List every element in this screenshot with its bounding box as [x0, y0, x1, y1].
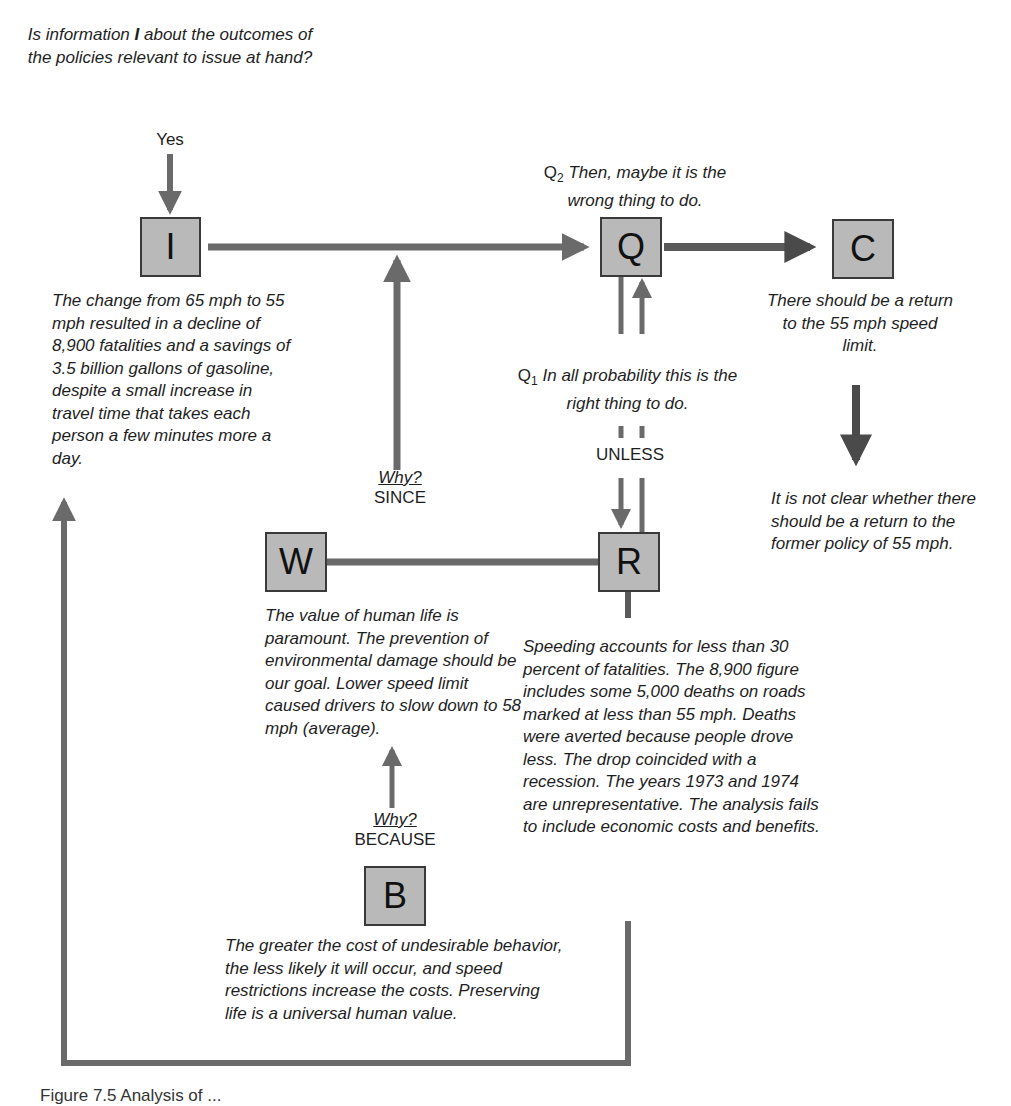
- figure-caption: Figure 7.5 Analysis of ...: [40, 1086, 221, 1106]
- rebuttal-conclusion-text: It is not clear whether there should be …: [771, 488, 991, 556]
- q2-text: Q2 Then, maybe it is the wrong thing to …: [530, 162, 740, 212]
- top-question: Is information I about the outcomes of t…: [20, 24, 320, 69]
- warrant-text: The value of human life is paramount. Th…: [265, 605, 525, 740]
- node-c: C: [832, 219, 894, 279]
- since-label: Why?SINCE: [350, 468, 450, 508]
- because-label: Why?BECAUSE: [330, 810, 460, 850]
- node-b: B: [364, 866, 426, 926]
- node-w: W: [265, 532, 327, 592]
- yes-label: Yes: [140, 130, 200, 150]
- q1-text: Q1 In all probability this is the right …: [505, 365, 750, 415]
- node-i: I: [140, 217, 201, 277]
- rebuttal-text: Speeding accounts for less than 30 perce…: [523, 636, 823, 839]
- unless-label: UNLESS: [580, 445, 680, 465]
- info-text: The change from 65 mph to 55 mph resulte…: [52, 290, 292, 470]
- backing-text: The greater the cost of undesirable beha…: [225, 935, 565, 1025]
- node-r: R: [598, 532, 660, 592]
- claim-text: There should be a return to the 55 mph s…: [765, 290, 955, 358]
- node-q: Q: [600, 217, 662, 277]
